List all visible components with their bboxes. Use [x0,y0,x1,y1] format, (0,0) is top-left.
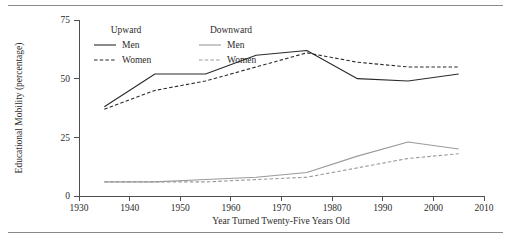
x-tick-label: 1970 [272,203,291,213]
series-upward-men [104,51,458,107]
x-tick-label: 1940 [120,203,139,213]
legend-label-upward-women: Women [122,55,152,65]
x-tick-label: 2000 [424,203,443,213]
series-group [104,51,458,182]
y-axis: 0255075 Educational Mobility (percentage… [14,15,79,201]
legend-heading-downward: Downward [210,25,252,35]
y-tick-label: 75 [61,15,71,25]
legend-label-upward-men: Men [122,40,140,50]
x-tick-group: 193019401950196019701980199020002010 [70,196,494,213]
y-tick-label: 0 [65,191,70,201]
x-tick-label: 1960 [221,203,240,213]
x-tick-label: 1980 [323,203,342,213]
chart-legend: UpwardMenWomenDownwardMenWomen [94,25,257,65]
y-tick-group: 0255075 [61,15,80,201]
x-tick-label: 1990 [373,203,392,213]
figure-root: 0255075 Educational Mobility (percentage… [0,0,511,244]
y-axis-title: Educational Mobility (percentage) [14,43,25,174]
x-axis: 193019401950196019701980199020002010 Yea… [70,196,494,226]
series-downward-men [104,142,458,182]
legend-label-downward-men: Men [227,40,245,50]
line-chart: 0255075 Educational Mobility (percentage… [0,0,511,244]
y-tick-label: 50 [61,74,71,84]
x-axis-title: Year Turned Twenty-Five Years Old [212,216,350,226]
legend-label-downward-women: Women [227,55,257,65]
series-downward-women [104,154,458,182]
x-tick-label: 1950 [171,203,190,213]
x-tick-label: 2010 [475,203,494,213]
y-tick-label: 25 [61,133,71,143]
legend-heading-upward: Upward [111,25,142,35]
x-tick-label: 1930 [70,203,89,213]
